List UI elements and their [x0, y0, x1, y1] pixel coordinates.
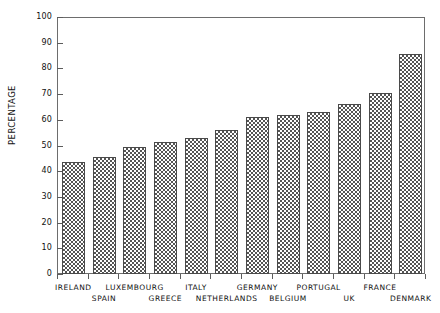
- x-label-ireland: IRELAND: [55, 283, 92, 292]
- x-tick: [88, 274, 89, 279]
- y-tick-label: 70: [22, 90, 52, 98]
- bars-container: [57, 17, 425, 274]
- bar-portugal: [307, 112, 330, 274]
- y-tick-label: 100: [22, 13, 52, 21]
- x-tick: [180, 274, 181, 279]
- x-label-denmark: DENMARK: [390, 294, 431, 303]
- y-tick-label: 60: [22, 116, 52, 124]
- x-label-germany: GERMANY: [237, 283, 278, 292]
- x-label-portugal: PORTUGAL: [297, 283, 341, 292]
- bar-luxembourg: [123, 147, 146, 274]
- x-tick: [57, 274, 58, 279]
- x-label-uk: UK: [344, 294, 355, 303]
- bar-ireland: [62, 162, 85, 274]
- y-axis-title: PERCENTAGE: [7, 75, 17, 155]
- y-tick-label: 80: [22, 64, 52, 72]
- x-tick: [272, 274, 273, 279]
- bar-spain: [93, 157, 116, 274]
- y-tick-label: 50: [22, 142, 52, 150]
- x-tick: [425, 274, 426, 279]
- x-tick: [118, 274, 119, 279]
- bar-france: [369, 93, 392, 274]
- x-label-luxembourg: LUXEMBOURG: [106, 283, 164, 292]
- x-tick: [149, 274, 150, 279]
- x-label-italy: ITALY: [185, 283, 207, 292]
- x-tick: [333, 274, 334, 279]
- bar-netherlands: [215, 130, 238, 274]
- y-tick-label: 40: [22, 167, 52, 175]
- x-tick: [241, 274, 242, 279]
- y-tick-label: 90: [22, 39, 52, 47]
- x-label-netherlands: NETHERLANDS: [196, 294, 258, 303]
- y-tick-label: 30: [22, 193, 52, 201]
- x-tick: [210, 274, 211, 279]
- x-label-belgium: BELGIUM: [269, 294, 307, 303]
- x-label-france: FRANCE: [364, 283, 397, 292]
- x-tick: [394, 274, 395, 279]
- y-tick-label: 20: [22, 219, 52, 227]
- bar-italy: [185, 138, 208, 274]
- x-label-spain: SPAIN: [92, 294, 116, 303]
- bar-greece: [154, 142, 177, 274]
- y-tick-label: 10: [22, 244, 52, 252]
- bar-denmark: [399, 54, 422, 274]
- x-label-greece: GREECE: [149, 294, 182, 303]
- bar-germany: [246, 117, 269, 274]
- bar-chart: PERCENTAGE 0102030405060708090100 IRELAN…: [0, 0, 440, 313]
- x-tick: [364, 274, 365, 279]
- y-tick-label: 0: [22, 270, 52, 278]
- bar-belgium: [277, 115, 300, 274]
- x-tick: [302, 274, 303, 279]
- bar-uk: [338, 104, 361, 274]
